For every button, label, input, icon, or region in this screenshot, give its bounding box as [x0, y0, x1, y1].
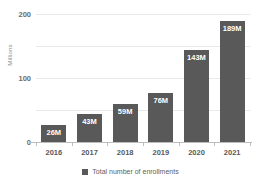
bar-series: 26M43M59M76M143M189M — [36, 14, 250, 142]
bar-chart: Millions 0100200 26M43M59M76M143M189M 20… — [0, 0, 261, 187]
plot-area: 0100200 26M43M59M76M143M189M — [36, 14, 250, 142]
x-axis-tick-label: 2017 — [81, 148, 98, 157]
bar-value-label: 143M — [184, 53, 209, 62]
x-axis-tick — [214, 142, 215, 146]
bar: 189M — [220, 21, 245, 142]
x-axis-tick — [36, 142, 37, 146]
bar: 143M — [184, 50, 209, 142]
x-axis-tick-label: 2019 — [152, 148, 169, 157]
x-axis-tick-label: 2021 — [224, 148, 241, 157]
bar-value-label: 43M — [77, 117, 102, 126]
bar: 43M — [77, 114, 102, 142]
bar-value-label: 59M — [113, 107, 138, 116]
y-axis-title: Millions — [7, 27, 13, 83]
bar-value-label: 189M — [220, 24, 245, 33]
x-axis-tick — [179, 142, 180, 146]
y-axis-tick-label: 100 — [18, 74, 31, 83]
bar: 59M — [113, 104, 138, 142]
x-axis-tick — [72, 142, 73, 146]
legend: Total number of enrollments — [0, 168, 261, 175]
x-axis-line — [30, 142, 252, 143]
x-axis-tick-label: 2018 — [117, 148, 134, 157]
legend-item-label: Total number of enrollments — [92, 168, 178, 175]
x-axis-tick-label: 2020 — [188, 148, 205, 157]
bar-value-label: 76M — [148, 96, 173, 105]
y-axis-tick-label: 200 — [18, 10, 31, 19]
x-axis-tick — [107, 142, 108, 146]
x-axis-tick — [250, 142, 251, 146]
x-axis-tick — [143, 142, 144, 146]
bar: 26M — [41, 125, 66, 142]
bar-value-label: 26M — [41, 128, 66, 137]
x-axis-tick-label: 2016 — [45, 148, 62, 157]
legend-swatch-icon — [82, 169, 88, 175]
bar: 76M — [148, 93, 173, 142]
